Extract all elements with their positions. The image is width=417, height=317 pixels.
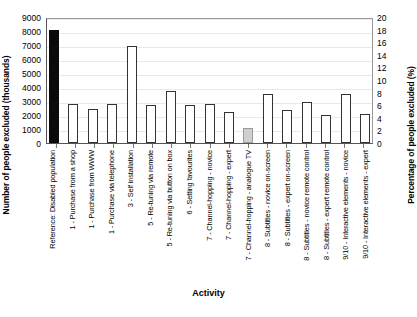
x-axis-label-text: 9/10 - Interactive elements - novice <box>343 150 351 272</box>
y-tick-left: 5000 <box>22 70 41 79</box>
y-tick-right: 20 <box>377 14 386 23</box>
x-axis-label: 1 - Purchase from WWW <box>87 150 97 278</box>
x-axis-label: 9/10 - Interactive elements - novice <box>341 150 351 278</box>
x-axis-label: 8 - Subtitles - novice remote control <box>302 150 312 278</box>
x-axis-label: 8 - Subtitles - novice on-screen <box>263 150 273 278</box>
x-tickmark <box>344 144 345 148</box>
x-tickmark <box>171 144 172 148</box>
bar <box>243 128 253 143</box>
x-tickmark <box>94 144 95 148</box>
y-tick-right: 4 <box>377 115 382 124</box>
x-axis-title: Activity <box>0 288 417 298</box>
x-axis-label: 1 - Purchase via telephone <box>107 150 117 278</box>
x-axis-label: 7 - Channel-hopping - expert <box>224 150 234 278</box>
x-axis-label-text: 1 - Purchase from WWW <box>88 150 96 229</box>
x-axis-label: 8 - Subtitles - expert remote control <box>322 150 332 278</box>
x-axis-label-text: 1 - Purchase from a shop <box>69 150 77 229</box>
chart-figure: Number of people excluded (thousands) 90… <box>0 0 417 317</box>
y-tick-left: 8000 <box>22 28 41 37</box>
x-tickmark <box>267 144 268 148</box>
x-tickmark <box>75 144 76 148</box>
bar <box>127 46 137 143</box>
y-tick-right: 6 <box>377 102 382 111</box>
x-axis-label: 7 - Channel-hopping - novice <box>205 150 215 278</box>
x-axis-label: 5 - Re-tuning via remote <box>146 150 156 278</box>
x-axis-label-text: 7 - Channel-hopping - expert <box>225 150 233 240</box>
y-axis-title-left: Number of people excluded (thousands) <box>0 0 13 270</box>
y-tick-right: 0 <box>377 140 382 149</box>
x-tickmark <box>363 144 364 148</box>
y-tick-left: 2000 <box>22 112 41 121</box>
y-tick-left: 9000 <box>22 14 41 23</box>
bar <box>88 109 98 143</box>
x-axis-label-text: 7 - Channel-hopping - novice <box>206 150 214 241</box>
x-axis-label: 9/10 - Interactive elements - expert <box>361 150 371 278</box>
x-axis-label: 7 - Channel-hopping - analogue TV <box>244 150 254 278</box>
x-axis-label: 6 - Setting favourites <box>185 150 195 278</box>
y-axis-ticks-right: 20181614121086420 <box>373 18 403 144</box>
bar <box>282 110 292 143</box>
bar <box>263 94 273 143</box>
bar <box>224 112 234 144</box>
x-tickmark <box>56 144 57 148</box>
x-axis-label-text: 8 - Subtitles - novice remote control <box>303 150 311 272</box>
x-tickmark <box>286 144 287 148</box>
bar <box>68 104 78 143</box>
bar <box>205 104 215 143</box>
y-tick-left: 6000 <box>22 56 41 65</box>
x-tickmark <box>133 144 134 148</box>
x-axis-label-text: 5 - Re-tuning via remote <box>147 150 155 226</box>
y-tick-right: 10 <box>377 77 386 86</box>
y-tick-right: 12 <box>377 64 386 73</box>
y-tick-right: 18 <box>377 26 386 35</box>
x-axis-label-text: 1 - Purchase via telephone <box>108 150 116 234</box>
bar <box>49 30 59 143</box>
x-axis-label-text: 8 - Subtitles - expert on-screen <box>284 150 292 272</box>
x-tickmark <box>152 144 153 148</box>
x-tickmark <box>229 144 230 148</box>
x-axis-label-text: 3 - Self installation <box>127 150 135 207</box>
x-tickmark <box>248 144 249 148</box>
x-axis-label-text: 6 - Setting favourites <box>186 150 194 214</box>
x-axis-labels: Reference: Disabled population1 - Purcha… <box>46 150 373 278</box>
x-axis-label-text: 8 - Subtitles - expert remote control <box>323 150 331 272</box>
y-tick-left: 7000 <box>22 42 41 51</box>
x-axis-label-text: 7 - Channel-hopping - analogue TV <box>245 150 253 272</box>
x-axis-label-text: Reference: Disabled population <box>49 150 57 249</box>
x-axis-label: 8 - Subtitles - expert on-screen <box>283 150 293 278</box>
y-tick-right: 2 <box>377 127 382 136</box>
x-axis-label-text: 5 - Re-tuning via button on box <box>166 150 174 272</box>
bar <box>302 102 312 143</box>
y-axis-title-right: Percentage of people excluded (%) <box>404 0 417 270</box>
x-tickmark <box>306 144 307 148</box>
x-axis-label-text: 8 - Subtitles - novice on-screen <box>264 150 272 272</box>
x-axis-label: 1 - Purchase from a shop <box>68 150 78 278</box>
y-axis-ticks-left: 9000800070006000500040003000200010000 <box>14 18 44 144</box>
bar-series <box>47 19 372 143</box>
y-tick-left: 4000 <box>22 84 41 93</box>
bar <box>185 105 195 143</box>
x-axis-label: 3 - Self installation <box>126 150 136 278</box>
plot-area <box>46 18 373 144</box>
bar <box>321 115 331 143</box>
x-tickmark <box>113 144 114 148</box>
y-tick-right: 8 <box>377 89 382 98</box>
x-axis-label: Reference: Disabled population <box>48 150 58 278</box>
x-tickmark <box>190 144 191 148</box>
bar <box>107 104 117 143</box>
y-tick-left: 0 <box>36 140 41 149</box>
y-tick-right: 16 <box>377 39 386 48</box>
x-tickmark <box>210 144 211 148</box>
bar <box>166 91 176 143</box>
y-tick-right: 14 <box>377 52 386 61</box>
x-tickmark <box>325 144 326 148</box>
y-tick-left: 1000 <box>22 126 41 135</box>
x-axis-tickmarks <box>46 144 373 149</box>
y-tick-left: 3000 <box>22 98 41 107</box>
x-axis-label-text: 9/10 - Interactive elements - expert <box>362 150 370 272</box>
x-axis-label: 5 - Re-tuning via button on box <box>165 150 175 278</box>
bar <box>360 114 370 143</box>
bar <box>146 105 156 143</box>
bar <box>341 94 351 143</box>
